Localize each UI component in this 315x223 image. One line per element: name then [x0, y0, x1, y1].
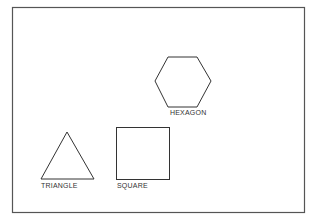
hexagon-shape: [155, 57, 211, 107]
square-label: SQUARE: [117, 182, 148, 189]
hexagon-label: HEXAGON: [170, 109, 206, 116]
shapes-canvas: [0, 0, 315, 223]
triangle-shape: [41, 132, 94, 179]
square-shape: [117, 128, 170, 180]
triangle-label: TRIANGLE: [41, 182, 78, 189]
